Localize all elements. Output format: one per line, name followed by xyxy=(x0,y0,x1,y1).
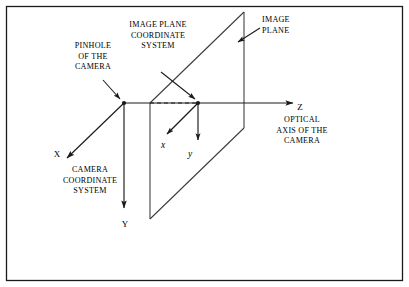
optical-axis-of-the-camera-label: OPTICAL AXIS OF THE CAMERA xyxy=(276,115,328,145)
pinhole-label-line3: CAMERA xyxy=(75,62,111,71)
camera-cs-label-line2: COORDINATE xyxy=(63,176,117,185)
optical-axis-label-line2: AXIS OF THE xyxy=(276,126,328,135)
camera-cs-label-line3: SYSTEM xyxy=(73,186,106,195)
pinhole-point xyxy=(122,101,126,105)
image-x-axis-arrow xyxy=(167,103,198,134)
pinhole-leader-arrow xyxy=(103,80,120,99)
camera-cs-label-line1: CAMERA xyxy=(72,165,108,174)
pinhole-label-line1: PINHOLE xyxy=(75,41,111,50)
image-plane-coordinate-system-label: IMAGE PLANE COORDINATE SYSTEM xyxy=(129,20,186,50)
figure-border xyxy=(7,7,403,281)
image-plane-coordinate-axes xyxy=(150,101,200,140)
x-axis-arrow xyxy=(67,103,124,158)
image-x-axis-label: x xyxy=(160,140,166,150)
y-axis-label: Y xyxy=(122,219,129,229)
image-plane-cs-label-line3: SYSTEM xyxy=(141,41,174,50)
image-plane-label-line2: PLANE xyxy=(262,26,289,35)
image-plane-origin-point xyxy=(196,101,200,105)
image-plane-cs-label-line2: COORDINATE xyxy=(131,31,185,40)
optical-axis-label-line3: CAMERA xyxy=(284,136,320,145)
pinhole-camera-diagram: Z Y X x y PINHOLE OF THE CAMERA IMAGE PL… xyxy=(0,0,409,287)
image-y-axis-label: y xyxy=(187,149,193,159)
image-plane-cs-label-line1: IMAGE PLANE xyxy=(129,20,186,29)
image-plane-label: IMAGE PLANE xyxy=(262,15,290,35)
optical-axis-label-line1: OPTICAL xyxy=(284,115,320,124)
pinhole-label-line2: OF THE xyxy=(78,52,107,61)
image-plane-label-line1: IMAGE xyxy=(262,15,290,24)
x-axis-label: X xyxy=(54,149,61,159)
image-plane-leader-arrow xyxy=(238,28,260,42)
pinhole-of-the-camera-label: PINHOLE OF THE CAMERA xyxy=(75,41,111,71)
camera-coordinate-system-label: CAMERA COORDINATE SYSTEM xyxy=(63,165,117,195)
z-axis-label: Z xyxy=(297,102,303,112)
figure-root: Z Y X x y PINHOLE OF THE CAMERA IMAGE PL… xyxy=(0,0,409,287)
